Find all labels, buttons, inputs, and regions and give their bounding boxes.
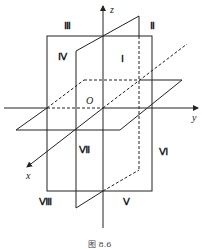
octant-label: Ⅳ	[58, 51, 68, 62]
octant-label: Ⅷ	[38, 196, 52, 207]
figure-caption: 图 8.6	[88, 240, 111, 249]
octant-label: Ⅶ	[78, 144, 90, 155]
octant-label: Ⅴ	[122, 196, 131, 207]
octant-diagram: z y x O ⅠⅡⅢⅣⅤⅥⅦⅧ 图 8.6	[0, 0, 202, 249]
octant-label: Ⅲ	[64, 20, 71, 31]
octant-label: Ⅱ	[150, 20, 155, 31]
y-axis-label: y	[191, 112, 197, 123]
z-axis-label: z	[109, 4, 114, 15]
xy-plane	[16, 80, 182, 130]
slanted-plane	[76, 16, 139, 208]
origin-label: O	[86, 95, 93, 106]
x-axis-label: x	[25, 170, 31, 181]
octant-label: Ⅵ	[158, 146, 168, 157]
octant-label: Ⅰ	[121, 53, 124, 64]
